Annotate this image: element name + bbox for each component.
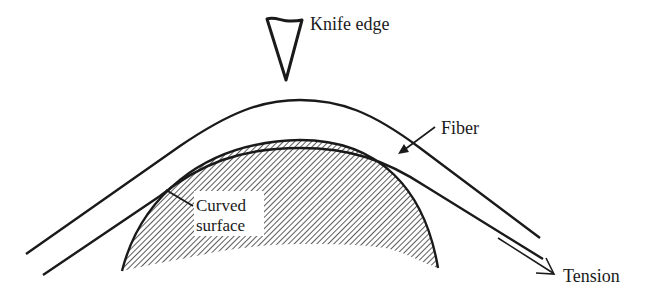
knife-edge-label: Knife edge (310, 14, 389, 34)
diagram-canvas: Knife edge Fiber Curved surface Tension (0, 0, 658, 305)
tension-arrow (498, 238, 554, 274)
curved-surface-label-line1: Curved (196, 196, 247, 215)
fiber-label: Fiber (441, 118, 479, 138)
curved-body (122, 140, 438, 271)
fiber-arrow (398, 127, 435, 154)
knife-edge-icon (267, 18, 302, 80)
curved-surface-label-line2: surface (196, 216, 245, 235)
tension-label: Tension (563, 266, 620, 286)
